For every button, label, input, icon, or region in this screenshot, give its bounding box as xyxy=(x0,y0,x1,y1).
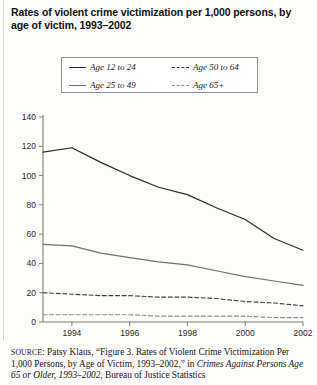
series-line-age-12-to-24 xyxy=(43,148,303,251)
y-axis-tick-label: 100 xyxy=(22,171,36,181)
chart-plot-area: 02040608010012014019941996199820002002 xyxy=(0,0,317,345)
source-line-1: : Patsy Klaus, “Figure 3. Rates of Viole… xyxy=(42,347,274,357)
source-label: SOURCE xyxy=(11,348,42,357)
line-chart-svg: 02040608010012014019941996199820002002 xyxy=(0,0,317,345)
source-note: SOURCE: Patsy Klaus, “Figure 3. Rates of… xyxy=(11,347,309,382)
x-axis-tick-label: 2000 xyxy=(236,328,255,338)
series-line-age-65 xyxy=(43,315,303,318)
source-line-3b: , Bureau of Justice Statistics xyxy=(100,370,205,380)
y-axis-tick-label: 0 xyxy=(31,317,36,327)
x-axis-tick-label: 1998 xyxy=(178,328,197,338)
y-axis-tick-label: 60 xyxy=(27,229,37,239)
y-axis-tick-label: 80 xyxy=(27,200,37,210)
y-axis-tick-label: 140 xyxy=(22,112,36,122)
series-line-age-25-to-49 xyxy=(43,244,303,285)
series-line-age-50-to-64 xyxy=(43,293,303,306)
x-axis-tick-label: 1994 xyxy=(62,328,81,338)
x-axis-tick-label: 2002 xyxy=(294,328,313,338)
y-axis-tick-label: 40 xyxy=(27,258,37,268)
y-axis-tick-label: 120 xyxy=(22,141,36,151)
source-publication-title-part-1: Crimes Against xyxy=(197,359,254,369)
y-axis-tick-label: 20 xyxy=(27,288,37,298)
x-axis-tick-label: 1996 xyxy=(120,328,139,338)
figure-page: Rates of violent crime victimization per… xyxy=(0,0,317,385)
